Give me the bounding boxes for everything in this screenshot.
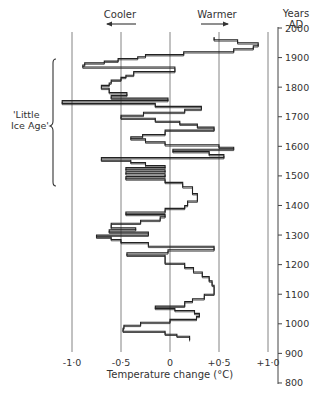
- year-tick-label: 1700: [285, 111, 309, 122]
- year-axis-label-line1: Years: [282, 8, 309, 19]
- temperature-tick-labels: -1·0-0·50+0·5+1·0: [63, 357, 280, 368]
- temperature-step-curve: [62, 37, 258, 340]
- year-tick-labels: 2000190018001700160015001400130012001100…: [278, 23, 309, 389]
- warmer-arrow-icon: [201, 22, 229, 27]
- little-ice-age-label-line2: Ice Age': [11, 120, 49, 131]
- x-axis-label: Temperature change (°C): [106, 369, 233, 380]
- cooler-arrow-icon: [106, 22, 136, 27]
- cooler-label: Cooler: [104, 9, 137, 20]
- year-tick-label: 1400: [285, 200, 309, 211]
- year-tick-label: 1900: [285, 52, 309, 63]
- year-tick-label: 1300: [285, 230, 309, 241]
- year-tick-label: 1800: [285, 82, 309, 93]
- vertical-gridlines: [72, 32, 268, 352]
- year-tick-label: 1500: [285, 170, 309, 181]
- year-tick-label: 900: [285, 348, 303, 359]
- temperature-step-curve-shadow: [62, 38, 258, 341]
- x-tick-label: +0·5: [207, 357, 230, 368]
- year-axis-label-line2: AD: [289, 19, 304, 30]
- little-ice-age-bracket: [50, 59, 56, 186]
- warmer-label: Warmer: [197, 9, 237, 20]
- year-tick-label: 1600: [285, 141, 309, 152]
- x-tick-label: -1·0: [63, 357, 82, 368]
- year-tick-label: 800: [285, 377, 303, 388]
- year-tick-label: 1200: [285, 259, 309, 270]
- year-tick-label: 1100: [285, 289, 309, 300]
- x-tick-label: +1·0: [256, 357, 279, 368]
- little-ice-age-label-line1: 'Little: [13, 109, 40, 120]
- temperature-chart: 2000190018001700160015001400130012001100…: [0, 0, 312, 395]
- x-tick-label: -0·5: [112, 357, 131, 368]
- x-tick-label: 0: [167, 357, 173, 368]
- year-tick-label: 1000: [285, 318, 309, 329]
